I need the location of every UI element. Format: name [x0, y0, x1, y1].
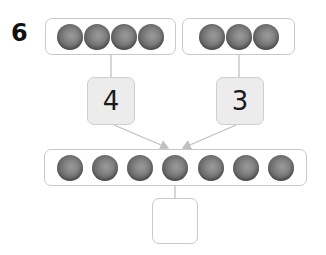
marble-icon [57, 24, 83, 50]
marble-icon [138, 24, 164, 50]
question-number: 6 [11, 19, 28, 47]
marble-icon [162, 155, 188, 181]
arrow-3-to-whole [183, 125, 236, 148]
marble-icon [199, 24, 225, 50]
whole-marbles [44, 149, 307, 186]
marble-icon [111, 24, 137, 50]
part-right-number: 3 [216, 77, 264, 125]
marble-icon [127, 155, 153, 181]
marble-icon [253, 24, 279, 50]
arrow-4-to-whole [114, 125, 168, 148]
marble-icon [57, 155, 83, 181]
marble-icon [198, 155, 224, 181]
marble-icon [226, 24, 252, 50]
part-left-marbles [45, 18, 176, 55]
marble-icon [84, 24, 110, 50]
part-right-marbles [182, 18, 295, 55]
marble-icon [268, 155, 294, 181]
answer-box[interactable] [152, 198, 198, 244]
part-left-number: 4 [87, 77, 135, 125]
marble-icon [233, 155, 259, 181]
marble-icon [92, 155, 118, 181]
